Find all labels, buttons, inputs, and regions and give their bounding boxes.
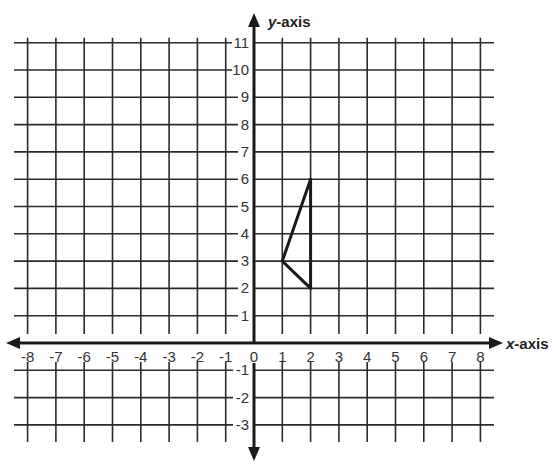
y-axis-label: y-axis bbox=[267, 13, 311, 30]
y-tick-label: 2 bbox=[241, 279, 249, 296]
x-tick-label: -4 bbox=[134, 348, 147, 365]
y-tick-label: 1 bbox=[241, 307, 249, 324]
x-tick-label: 3 bbox=[335, 348, 343, 365]
x-tick-label: -1 bbox=[219, 348, 232, 365]
x-tick-label: 5 bbox=[391, 348, 399, 365]
y-tick-label: -3 bbox=[236, 416, 249, 433]
x-tick-label: 1 bbox=[278, 348, 286, 365]
y-tick-label: 5 bbox=[241, 198, 249, 215]
x-tick-label: -6 bbox=[78, 348, 91, 365]
y-tick-label: 6 bbox=[241, 170, 249, 187]
x-tick-label: 8 bbox=[476, 348, 484, 365]
y-tick-label: 7 bbox=[241, 143, 249, 160]
y-tick-label: 3 bbox=[241, 252, 249, 269]
y-tick-label: 8 bbox=[241, 116, 249, 133]
y-axis-up-arrow-icon bbox=[248, 13, 260, 27]
y-axis-down-arrow-icon bbox=[248, 447, 260, 461]
axes bbox=[6, 13, 503, 461]
x-tick-label: -7 bbox=[49, 348, 62, 365]
x-tick-label: 4 bbox=[363, 348, 371, 365]
y-tick-label: -2 bbox=[236, 389, 249, 406]
coordinate-plane: -8-7-6-5-4-3-2-10123456781110987654321-1… bbox=[0, 0, 556, 474]
x-tick-label: -8 bbox=[21, 348, 34, 365]
x-axis-label: x-axis bbox=[505, 335, 549, 352]
x-tick-label: -2 bbox=[191, 348, 204, 365]
x-tick-label: 0 bbox=[250, 348, 258, 365]
x-tick-label: 6 bbox=[420, 348, 428, 365]
y-tick-label: 9 bbox=[241, 88, 249, 105]
y-tick-label: 10 bbox=[232, 61, 249, 78]
y-tick-label: -1 bbox=[236, 361, 249, 378]
x-axis-right-arrow-icon bbox=[489, 337, 503, 349]
x-tick-label: -5 bbox=[106, 348, 119, 365]
x-tick-label: 2 bbox=[306, 348, 314, 365]
y-tick-label: 11 bbox=[233, 34, 249, 51]
x-tick-label: 7 bbox=[448, 348, 456, 365]
x-tick-label: -3 bbox=[162, 348, 175, 365]
y-tick-label: 4 bbox=[241, 225, 249, 242]
x-axis-left-arrow-icon bbox=[6, 337, 20, 349]
